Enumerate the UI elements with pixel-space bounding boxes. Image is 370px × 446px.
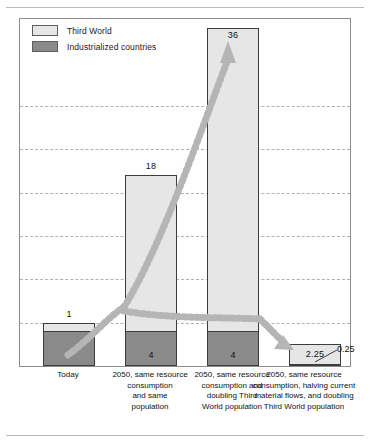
legend-swatch-third-world <box>32 25 58 36</box>
x-label-2050-same-population-line-2: consumption <box>107 381 193 392</box>
bar-2050-same-population-top-value: 18 <box>125 161 177 171</box>
legend-label-third-world: Third World <box>67 26 112 36</box>
bar-2050-double-population[interactable]: 36 4 <box>207 28 259 366</box>
bar-2050-same-population-bottom-value: 4 <box>126 350 176 360</box>
bar-today-top-value: 1 <box>43 309 95 319</box>
x-label-today: Today <box>27 370 109 381</box>
bar-2050-same-population-industrialized-segment: 4 <box>125 331 177 366</box>
x-label-2050-same-population-line-1: 2050, same resource <box>107 370 193 381</box>
x-label-2050-same-population-line-4: population <box>107 402 193 413</box>
x-label-2050-same-population-line-3: and same <box>107 391 193 402</box>
legend-item-third-world: Third World <box>32 25 156 36</box>
bar-2050-halved-flows-industrialized-segment <box>289 364 341 366</box>
bars-layer: 1 4 18 4 36 <box>20 19 350 366</box>
legend-label-industrialized-countries: Industrialized countries <box>67 42 156 52</box>
bar-2050-double-population-industrialized-segment: 4 <box>207 331 259 366</box>
bar-today-bottom-value: 4 <box>44 350 94 360</box>
legend: Third World Industrialized countries <box>32 25 156 57</box>
bar-2050-same-population-third-world-segment <box>125 175 177 331</box>
x-label-2050-halved-flows-line-4: Third World population <box>251 402 357 413</box>
x-label-2050-same-population: 2050, same resource consumption and same… <box>107 370 193 412</box>
x-label-2050-halved-flows: 2050, same resource consumption, halving… <box>251 370 357 412</box>
callout-value-0-25: 0.25 <box>337 344 355 354</box>
top-divider-rule <box>6 7 364 8</box>
legend-swatch-industrialized-countries <box>32 41 58 52</box>
x-label-2050-halved-flows-line-3: material flows, and doubling <box>251 391 357 402</box>
plot-area: Third World Industrialized countries 1 4 <box>19 18 351 367</box>
plot-inner: Third World Industrialized countries 1 4 <box>20 19 350 366</box>
bar-today-third-world-segment <box>43 323 95 332</box>
chart-page: Third World Industrialized countries 1 4 <box>0 0 370 446</box>
x-label-today-line-1: Today <box>27 370 109 381</box>
bar-today-industrialized-segment: 4 <box>43 331 95 366</box>
x-label-2050-halved-flows-line-1: 2050, same resource <box>251 370 357 381</box>
bar-2050-double-population-bottom-value: 4 <box>208 350 258 360</box>
bar-today[interactable]: 1 4 <box>43 323 95 366</box>
bar-2050-double-population-third-world-segment <box>207 28 259 331</box>
bar-2050-double-population-top-value: 36 <box>207 30 259 40</box>
legend-item-industrialized-countries: Industrialized countries <box>32 41 156 52</box>
x-label-2050-halved-flows-line-2: consumption, halving current <box>251 381 357 392</box>
bar-2050-same-population[interactable]: 18 4 <box>125 175 177 366</box>
x-axis-labels: Today 2050, same resource consumption an… <box>19 370 351 440</box>
